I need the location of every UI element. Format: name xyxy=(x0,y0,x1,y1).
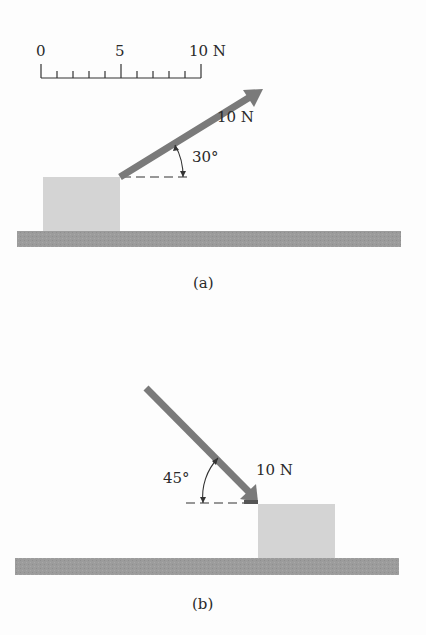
diagram-canvas xyxy=(0,0,426,635)
part-a xyxy=(17,89,401,247)
scale-label-5: 5 xyxy=(115,44,125,59)
block-a xyxy=(43,177,120,231)
angle-arc-b xyxy=(203,458,218,503)
ground-b xyxy=(15,558,399,575)
force-scale xyxy=(41,64,201,78)
part-b xyxy=(15,388,399,575)
caption-b: (b) xyxy=(192,597,213,612)
caption-a: (a) xyxy=(193,276,214,291)
block-b xyxy=(258,504,335,558)
angle-label-a: 30° xyxy=(192,150,219,165)
scale-label-0: 0 xyxy=(36,44,46,59)
angle-label-b: 45° xyxy=(163,471,190,486)
ground-a xyxy=(17,231,401,247)
force-label-b: 10 N xyxy=(256,463,293,478)
scale-label-10n: 10 N xyxy=(189,44,226,59)
force-label-a: 10 N xyxy=(217,110,254,125)
